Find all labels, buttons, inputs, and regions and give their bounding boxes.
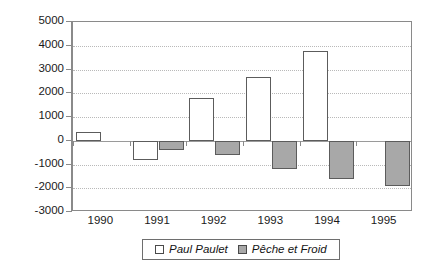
x-axis-tick-label: 1994: [297, 215, 357, 227]
legend-entry[interactable]: Paul Paulet: [155, 244, 228, 256]
legend-label: Pêche et Froid: [252, 244, 327, 256]
x-axis-tick-mark: [73, 141, 74, 146]
bar: [385, 141, 410, 186]
y-axis-tick-label: -2000: [0, 181, 64, 193]
y-axis-tick-label: 2000: [0, 86, 64, 98]
bar: [215, 141, 240, 155]
y-axis-tick-label: 5000: [0, 15, 64, 27]
bar: [303, 51, 328, 141]
zero-line: [73, 141, 411, 142]
y-axis-tick-label: 1000: [0, 110, 64, 122]
y-axis-tick-mark: [66, 211, 72, 212]
bar: [246, 77, 271, 141]
x-axis-tick-label: 1990: [70, 215, 130, 227]
legend-swatch-icon: [155, 245, 164, 254]
y-axis-tick-label: -1000: [0, 158, 64, 170]
legend-label: Paul Paulet: [169, 244, 228, 256]
bar-chart: 500040003000200010000-1000-2000-3000 199…: [0, 0, 427, 271]
chart-legend: Paul PauletPêche et Froid: [142, 239, 340, 260]
bar: [272, 141, 297, 169]
gridline: [73, 165, 411, 166]
gridline: [73, 70, 411, 71]
x-axis-tick-mark: [300, 141, 301, 146]
legend-entry[interactable]: Pêche et Froid: [238, 244, 327, 256]
bar: [329, 141, 354, 179]
x-axis-tick-label: 1992: [184, 215, 244, 227]
x-axis-tick-label: 1993: [240, 215, 300, 227]
gridline: [73, 93, 411, 94]
bar: [133, 141, 158, 160]
x-axis-tick-mark: [130, 141, 131, 146]
gridline: [73, 46, 411, 47]
bar: [76, 132, 101, 140]
bar: [159, 141, 184, 151]
y-axis-tick-label: 3000: [0, 63, 64, 75]
y-axis-tick-label: 4000: [0, 39, 64, 51]
x-axis-tick-mark: [243, 141, 244, 146]
bar: [189, 98, 214, 140]
x-axis-tick-mark: [186, 141, 187, 146]
x-axis-tick-label: 1995: [354, 215, 414, 227]
plot-area: [72, 21, 412, 211]
y-axis-tick-label: 0: [0, 134, 64, 146]
x-axis-tick-label: 1991: [127, 215, 187, 227]
gridline: [73, 117, 411, 118]
y-axis-tick-label: -3000: [0, 205, 64, 217]
gridline: [73, 188, 411, 189]
x-axis-tick-mark: [356, 141, 357, 146]
legend-swatch-icon: [238, 245, 247, 254]
